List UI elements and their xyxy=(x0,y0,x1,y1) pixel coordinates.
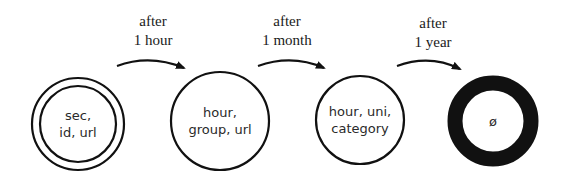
arrow-2-icon xyxy=(258,60,324,68)
stage-2-label-line1: hour, xyxy=(203,104,237,121)
transition-label-2: after 1 month xyxy=(232,12,342,50)
empty-set-icon: ø xyxy=(489,113,497,130)
stage-1-label-line1: sec, xyxy=(65,107,91,124)
transition-label-1-line1: after xyxy=(98,12,208,31)
transition-label-2-line1: after xyxy=(232,12,342,31)
transition-label-3-line1: after xyxy=(378,14,488,33)
stage-3-label-line1: hour, uni, xyxy=(329,103,391,120)
transition-label-1: after 1 hour xyxy=(98,12,208,50)
arrow-3-icon xyxy=(397,61,460,69)
transition-label-2-line2: 1 month xyxy=(232,31,342,50)
stage-3-label-line2: category xyxy=(331,120,388,137)
arrow-1-icon xyxy=(117,60,184,68)
transition-label-1-line2: 1 hour xyxy=(98,31,208,50)
transition-label-3-line2: 1 year xyxy=(378,33,488,52)
stage-2-label-line2: group, url xyxy=(188,121,251,138)
stage-1-label: sec, id, url xyxy=(40,100,116,148)
stage-2-label: hour, group, url xyxy=(175,97,265,145)
stage-4-label: ø xyxy=(463,110,523,132)
stage-1-label-line2: id, url xyxy=(59,124,96,141)
transition-label-3: after 1 year xyxy=(378,14,488,52)
stage-3-label: hour, uni, category xyxy=(318,96,402,144)
